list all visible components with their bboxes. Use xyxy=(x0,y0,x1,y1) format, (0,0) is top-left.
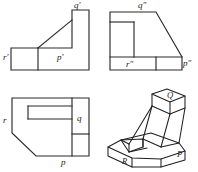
iso-label-q: Q xyxy=(167,91,173,100)
iso-column-right-slope xyxy=(179,108,185,143)
iso-base-front-face xyxy=(108,147,185,167)
iso-label-p: P xyxy=(177,150,182,159)
front-view-incline xyxy=(38,20,72,48)
iso-column-foot-right-edge xyxy=(161,143,179,147)
side-view-label-p-double-prime: p″ xyxy=(183,59,191,68)
top-plan-view xyxy=(0,86,99,172)
iso-label-r: R xyxy=(122,157,127,166)
side-view-label-r-double-prime: r″ xyxy=(126,60,133,69)
front-view-label-r-prime: r' xyxy=(3,53,8,62)
iso-column-front-slope xyxy=(161,114,170,147)
front-view-outline xyxy=(11,10,89,70)
top-view-outline xyxy=(12,98,89,156)
side-view-label-q-double-prime: q″ xyxy=(138,1,146,10)
iso-base-top-face xyxy=(108,133,185,159)
front-view-label-p-prime: p' xyxy=(57,53,63,62)
front-elevation-view xyxy=(0,0,99,86)
iso-column-foot-edge xyxy=(143,139,161,147)
top-view-label-q: q xyxy=(77,114,82,123)
front-view-label-q-prime: q' xyxy=(74,1,80,10)
side-elevation-view xyxy=(99,0,198,86)
top-view-label-r: r xyxy=(3,116,7,125)
technical-drawing-figure: q' r' p' q″ r″ p″ r q p xyxy=(0,0,198,172)
top-view-label-p: p xyxy=(61,158,66,167)
iso-rib-top-slope xyxy=(129,106,152,144)
isometric-pictorial-view xyxy=(99,86,198,172)
side-view-outline xyxy=(110,12,182,70)
